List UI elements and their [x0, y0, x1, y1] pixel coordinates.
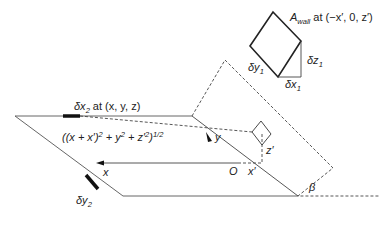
dz1-label: δz1	[307, 54, 323, 69]
geometry-diagram: Awall at (−x′, 0, z′) δy1 δz1 δx1 δx2 at…	[0, 0, 381, 240]
x-arrow-head	[96, 161, 104, 166]
a-wall-label: Awall at (−x′, 0, z′)	[289, 11, 373, 26]
origin-label: O	[229, 165, 238, 177]
x-prime-label: x′	[247, 165, 257, 177]
y-arrow-head	[206, 132, 212, 142]
z-prime-label: z′	[265, 144, 275, 156]
dx1-label: δx1	[285, 78, 301, 93]
wall-element	[252, 121, 271, 145]
x-axis-label: x	[102, 166, 109, 178]
dy1-label: δy1	[248, 61, 264, 76]
distance-line	[80, 116, 252, 132]
beta-label: β	[308, 181, 316, 193]
dy2-segment	[86, 175, 98, 189]
dy2-label: δy2	[76, 194, 93, 209]
distance-expression: ((x + x′)2 + y2 + z′2)1/2	[62, 130, 164, 143]
dx2-label: δx2 at (x, y, z)	[74, 100, 140, 115]
y-axis-label: y	[214, 131, 222, 143]
projection-lines	[238, 134, 262, 163]
y-axis-line	[192, 116, 298, 196]
